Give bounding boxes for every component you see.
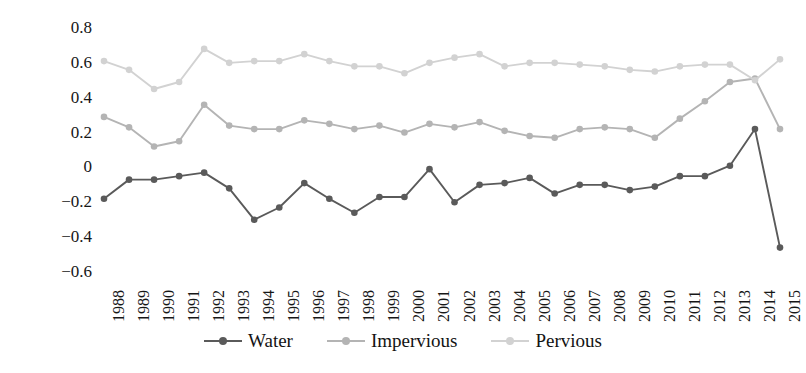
x-tick-label: 2000 [411, 290, 427, 322]
data-point [677, 173, 684, 180]
legend-marker-icon [491, 335, 529, 347]
x-tick-label: 2009 [637, 290, 653, 322]
data-point [376, 63, 383, 70]
data-point [626, 187, 633, 194]
data-point [702, 173, 709, 180]
data-point [101, 114, 108, 121]
x-tick-label: 1989 [136, 290, 152, 322]
legend-item-impervious: Impervious [327, 331, 458, 350]
data-point [126, 124, 133, 131]
x-tick-label: 2011 [687, 291, 703, 322]
data-point [251, 126, 258, 133]
data-point [652, 183, 659, 190]
x-tick-label: 1997 [336, 290, 352, 322]
data-point [626, 67, 633, 74]
x-tick-label: 1995 [286, 290, 302, 322]
data-point [226, 122, 233, 129]
data-point [276, 126, 283, 133]
data-point [727, 162, 734, 169]
data-point [652, 135, 659, 142]
x-tick-label: 2007 [587, 290, 603, 322]
data-point [576, 61, 583, 68]
legend-marker-icon [204, 335, 242, 347]
data-point [727, 79, 734, 86]
x-tick-label: 2003 [487, 290, 503, 322]
data-point [526, 133, 533, 140]
x-tick-label: 2014 [762, 290, 778, 322]
data-point [226, 60, 233, 67]
series-line [104, 79, 780, 147]
data-point [752, 126, 759, 133]
data-point [226, 185, 233, 192]
data-point [276, 204, 283, 211]
data-point [351, 63, 358, 70]
data-point [551, 190, 558, 197]
x-tick-label: 2001 [436, 290, 452, 322]
data-point [551, 60, 558, 67]
data-point [501, 63, 508, 70]
x-tick-label: 2006 [562, 290, 578, 322]
data-point [326, 58, 333, 65]
x-tick-label: 2008 [612, 290, 628, 322]
data-point [526, 175, 533, 182]
series-water [101, 126, 784, 251]
chart-legend: WaterImperviousPervious [0, 331, 806, 350]
data-point [601, 182, 608, 189]
data-point [526, 60, 533, 67]
legend-label: Pervious [535, 331, 602, 350]
x-tick-label: 1996 [311, 290, 327, 322]
series-pervious [101, 46, 784, 93]
data-point [301, 51, 308, 58]
x-tick-label: 2005 [537, 290, 553, 322]
data-point [551, 135, 558, 142]
data-point [326, 121, 333, 128]
data-point [727, 61, 734, 68]
data-point [351, 209, 358, 216]
data-point [476, 182, 483, 189]
data-point [201, 46, 208, 53]
line-chart: 0.80.60.40.20−0.2−0.4−0.6 19881989199019… [0, 0, 806, 373]
data-point [251, 216, 258, 223]
data-point [777, 244, 784, 251]
data-point [451, 54, 458, 61]
data-point [626, 126, 633, 133]
data-point [326, 196, 333, 203]
data-point [151, 176, 158, 183]
data-point [677, 115, 684, 122]
legend-item-pervious: Pervious [491, 331, 602, 350]
data-point [677, 63, 684, 70]
legend-label: Impervious [371, 331, 458, 350]
x-tick-label: 2015 [787, 290, 803, 322]
data-point [426, 166, 433, 173]
x-tick-label: 1999 [386, 290, 402, 322]
data-point [426, 121, 433, 128]
data-point [301, 180, 308, 187]
data-point [126, 67, 133, 74]
x-tick-label: 1992 [211, 290, 227, 322]
data-point [777, 56, 784, 63]
data-point [201, 169, 208, 176]
data-point [276, 58, 283, 65]
data-point [401, 70, 408, 77]
x-tick-label: 1988 [111, 290, 127, 322]
data-point [576, 126, 583, 133]
data-point [176, 79, 183, 86]
data-point [126, 176, 133, 183]
data-point [176, 138, 183, 145]
x-tick-label: 2002 [462, 290, 478, 322]
x-tick-label: 1994 [261, 290, 277, 322]
data-point [201, 101, 208, 108]
data-point [401, 129, 408, 136]
x-tick-label: 1998 [361, 290, 377, 322]
data-point [501, 128, 508, 135]
x-tick-label: 1993 [236, 290, 252, 322]
data-point [576, 182, 583, 189]
data-point [101, 58, 108, 65]
data-point [401, 194, 408, 201]
data-point [426, 60, 433, 67]
x-tick-label: 2012 [712, 290, 728, 322]
series-layer [101, 46, 784, 251]
data-point [151, 143, 158, 150]
legend-item-water: Water [204, 331, 293, 350]
data-point [476, 51, 483, 58]
